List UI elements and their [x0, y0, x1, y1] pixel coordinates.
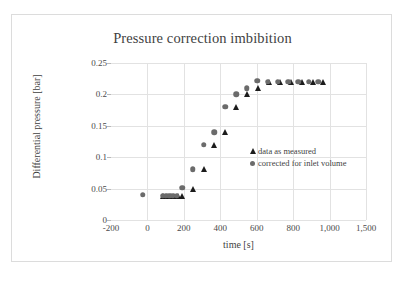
gridline-vertical: [293, 63, 294, 220]
data-point-series-1: [306, 79, 312, 85]
data-point-series-1: [275, 79, 281, 85]
y-tick-label: 0.1: [96, 152, 107, 162]
y-axis-tick-labels: 00.050.10.150.20.25: [74, 63, 107, 220]
data-point-series-0: [222, 129, 228, 135]
x-axis-tick-labels: -20002004006008001,0001,500: [111, 223, 366, 237]
gridline-horizontal: [111, 220, 366, 221]
gridline-horizontal: [111, 126, 366, 127]
data-point-series-0: [201, 166, 207, 172]
data-point-series-1: [244, 85, 250, 91]
legend-item-measured: data as measured: [248, 145, 347, 157]
data-point-series-1: [174, 193, 180, 199]
data-point-series-1: [316, 79, 322, 85]
chart-container: Pressure correction imbibition Different…: [11, 14, 392, 262]
y-axis-title: Differential pressure [bar]: [31, 57, 42, 197]
data-point-series-0: [211, 142, 217, 148]
data-point-series-1: [295, 79, 301, 85]
x-tick-label: -200: [103, 223, 120, 233]
data-point-series-1: [234, 92, 240, 98]
x-tick-label: 200: [177, 223, 191, 233]
gridline-vertical: [330, 63, 331, 220]
y-tick-label: 0.2: [96, 89, 107, 99]
circle-marker-icon: [248, 161, 257, 167]
x-tick-label: 1,000: [319, 223, 339, 233]
x-tick-label: 1,500: [356, 223, 376, 233]
chart-title: Pressure correction imbibition: [12, 30, 393, 47]
data-point-series-1: [140, 192, 146, 198]
gridline-vertical: [220, 63, 221, 220]
x-tick-label: 600: [250, 223, 264, 233]
data-point-series-1: [190, 166, 196, 172]
data-point-series-0: [255, 85, 261, 91]
data-point-series-0: [190, 186, 196, 192]
gridline-vertical: [366, 63, 367, 220]
legend-item-corrected: corrected for inlet volume: [248, 157, 347, 169]
data-point-series-1: [254, 78, 260, 84]
triangle-marker-icon: [248, 148, 257, 154]
x-tick-label: 800: [286, 223, 300, 233]
data-point-series-1: [212, 129, 218, 135]
y-tick-label: 0.05: [91, 184, 107, 194]
chart-legend: data as measured corrected for inlet vol…: [248, 145, 347, 170]
gridline-vertical: [147, 63, 148, 220]
x-tick-label: 400: [214, 223, 228, 233]
data-point-series-0: [179, 193, 185, 199]
x-axis-title: time [s]: [111, 239, 366, 250]
gridline-horizontal: [111, 63, 366, 64]
data-point-series-0: [244, 91, 250, 97]
y-tick-label: 0.25: [91, 58, 107, 68]
legend-label-measured: data as measured: [258, 145, 316, 157]
data-point-series-0: [233, 104, 239, 110]
legend-label-corrected: corrected for inlet volume: [258, 157, 347, 169]
data-point-series-1: [285, 79, 291, 85]
y-tick-label: 0.15: [91, 121, 107, 131]
gridline-horizontal: [111, 189, 366, 190]
data-point-series-1: [201, 142, 207, 148]
x-tick-label: 0: [145, 223, 150, 233]
data-point-series-1: [265, 79, 271, 85]
plot-area: data as measured corrected for inlet vol…: [111, 63, 366, 220]
plot-background: [111, 63, 366, 220]
data-point-series-1: [179, 185, 185, 191]
data-point-series-1: [223, 104, 229, 110]
